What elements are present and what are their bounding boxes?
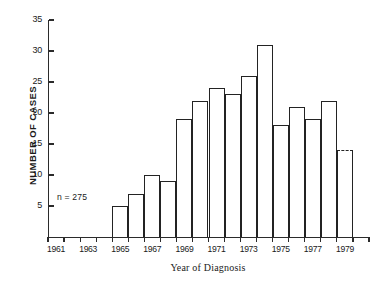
bar [176,119,192,237]
bar [305,119,321,237]
y-axis-tick [49,174,54,175]
x-axis-tick [304,237,305,242]
x-axis-tick [144,237,145,242]
x-axis-tick [288,237,289,242]
x-axis-tick [47,237,48,242]
bar [209,88,225,237]
bar [112,206,128,237]
x-axis-tick-label: 1979 [325,244,365,254]
bar [144,175,160,237]
y-axis-tick-label: 20 [16,107,42,117]
y-axis-tick-label: 25 [16,76,42,86]
y-axis-tick-label: 30 [16,45,42,55]
x-axis-title: Year of Diagnosis [48,262,368,273]
x-axis-tick [256,237,257,242]
x-axis-tick [80,237,81,242]
y-axis-tick [49,112,54,113]
x-axis-tick [320,237,321,242]
y-axis-tick-label: 15 [16,138,42,148]
x-axis-tick [240,237,241,242]
y-axis-tick-label: 10 [16,169,42,179]
x-axis-tick [224,237,225,242]
x-axis-tick [96,237,97,242]
y-axis-tick [49,19,54,20]
x-axis-tick [176,237,177,242]
bar [241,76,257,237]
x-axis-tick [192,237,193,242]
bar [337,150,353,237]
y-axis-tick-label: 35 [16,14,42,24]
x-axis-tick [112,237,113,242]
x-axis-tick [160,237,161,242]
histogram-figure: NUMBER OF CASES 5101520253035 1961196319… [0,0,379,286]
x-axis-tick [208,237,209,242]
sample-size-annotation: n = 275 [57,192,87,202]
y-axis-tick-label: 5 [16,200,42,210]
y-axis-tick [49,205,54,206]
bar [192,101,208,237]
x-axis-tick [336,237,337,242]
y-axis-tick [49,143,54,144]
x-axis-tick [368,237,369,242]
x-axis-tick [352,237,353,242]
bar [128,194,144,237]
x-axis-tick [63,237,64,242]
bar [257,45,273,237]
bar [160,181,176,237]
y-axis-tick [49,50,54,51]
bar [321,101,337,237]
bar [289,107,305,237]
x-axis-tick [272,237,273,242]
y-axis-tick [49,81,54,82]
x-axis-tick [128,237,129,242]
bar [273,125,289,237]
bar [225,94,241,237]
